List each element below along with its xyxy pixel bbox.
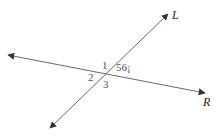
- angle-1-label: 1: [102, 59, 108, 71]
- angle-3-label: 3: [103, 78, 109, 90]
- angle-2-label: 2: [88, 71, 94, 83]
- intersecting-lines-diagram: L R 1 2 3 56¡: [0, 0, 220, 135]
- line-r-label: R: [202, 95, 211, 109]
- given-angle-label: 56¡: [116, 61, 131, 73]
- line-l: [50, 14, 168, 128]
- line-l-label: L: [171, 8, 179, 22]
